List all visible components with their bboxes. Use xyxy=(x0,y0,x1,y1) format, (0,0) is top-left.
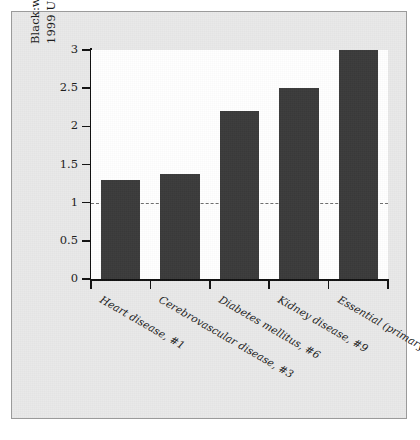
bar xyxy=(279,88,318,279)
y-tick-mark xyxy=(82,126,90,128)
y-tick-label: 1 xyxy=(20,195,78,209)
y-tick-mark xyxy=(82,49,90,51)
y-tick-label: 0.5 xyxy=(20,233,78,247)
x-tick-mark xyxy=(268,281,270,289)
plot-area xyxy=(91,50,388,279)
y-tick-mark xyxy=(82,87,90,89)
y-tick-label: 3 xyxy=(20,42,78,56)
y-tick-label: 1.5 xyxy=(20,157,78,171)
y-tick-mark xyxy=(82,278,90,280)
x-axis-line xyxy=(90,279,389,281)
x-tick-mark xyxy=(387,281,389,289)
x-axis-label: Diabetes mellitus, #6 xyxy=(217,293,323,361)
x-tick-mark xyxy=(90,281,92,289)
y-tick-mark xyxy=(82,202,90,204)
y-axis-title-line-1: Black:white cause-specific mortality rat… xyxy=(28,0,42,44)
y-tick-label: 2.5 xyxy=(20,80,78,94)
y-axis-title-line-2: 1999 US xyxy=(44,0,58,44)
y-tick-mark xyxy=(82,164,90,166)
y-tick-label: 2 xyxy=(20,118,78,132)
bar xyxy=(220,111,259,279)
x-tick-mark xyxy=(328,281,330,289)
y-tick-mark xyxy=(82,240,90,242)
x-axis-label: Essential (primary) hypertension, #10 xyxy=(336,293,420,406)
bar xyxy=(339,50,378,279)
y-tick-label: 0 xyxy=(20,271,78,285)
bar xyxy=(160,174,199,279)
x-tick-mark xyxy=(209,281,211,289)
figure-frame: Black:white cause-specific mortality rat… xyxy=(11,11,407,419)
x-tick-mark xyxy=(150,281,152,289)
bar xyxy=(101,180,140,279)
